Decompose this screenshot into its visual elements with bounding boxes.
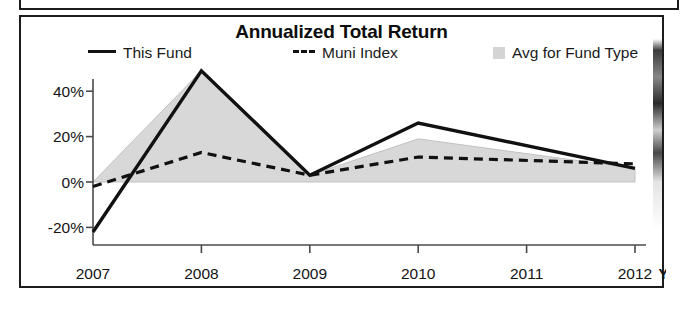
plot-area: 40% 20% 0% -20% 2007 2008 2009 2010 2011… [21,17,662,286]
y-tick-label-40: 40% [53,83,84,100]
chart-svg: 40% 20% 0% -20% 2007 2008 2009 2010 2011… [21,17,666,290]
series-area-avg-for-fund-type [93,71,635,182]
x-axis-ticks [201,245,635,253]
y-tick-label-0: 0% [62,174,85,191]
y-axis-ticks [86,91,93,227]
y-tick-label-neg20: -20% [48,219,84,236]
x-tick-label-2009: 2009 [293,265,327,282]
x-tick-label-2008: 2008 [184,265,218,282]
panel-fragment-above [19,0,679,10]
x-tick-label-2007: 2007 [76,265,110,282]
x-tick-label-2012: 2012 [618,265,652,282]
x-tick-label-2010: 2010 [401,265,436,282]
x-tick-label-2011: 2011 [510,265,543,282]
annualized-total-return-chart-panel: Annualized Total Return This Fund Muni I… [19,15,664,288]
scan-artifact-edge [653,39,662,229]
y-tick-label-20: 20% [53,128,84,145]
x-axis-ytd-label: YTD [659,266,667,282]
